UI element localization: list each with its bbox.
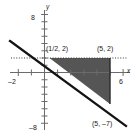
point-label-upper-right: (5, 2) bbox=[97, 45, 113, 52]
y-tick-label-bottom: –8 bbox=[29, 124, 37, 131]
shaded-region-triangle bbox=[50, 58, 111, 104]
y-tick-label-top: 8 bbox=[31, 14, 35, 21]
point-label-lower-right: (5, –7) bbox=[92, 120, 112, 127]
x-tick-label-left: –2 bbox=[8, 78, 16, 85]
x-axis-label: x bbox=[127, 68, 130, 75]
y-axis-label: y bbox=[46, 4, 49, 11]
x-tick-label-right: 6 bbox=[119, 78, 123, 85]
point-label-upper-left: (1/2, 2) bbox=[46, 45, 68, 52]
coordinate-graph-figure: (1/2, 2) (5, 2) (5, –7) –2 6 8 –8 x y bbox=[0, 0, 136, 137]
plot-canvas bbox=[0, 0, 136, 137]
